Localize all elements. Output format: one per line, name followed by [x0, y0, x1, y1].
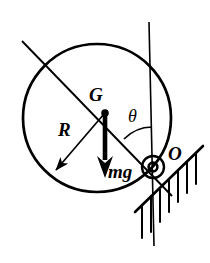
physics-diagram-disk-pivot: G R mg O θ: [0, 0, 210, 263]
label-angle: θ: [128, 107, 137, 125]
label-weight: mg: [108, 162, 132, 181]
diagram-canvas: [0, 0, 210, 263]
center-point-G: [101, 109, 109, 117]
label-pivot: O: [168, 144, 182, 163]
angle-arc-theta: [124, 127, 152, 139]
label-radius: R: [58, 120, 71, 139]
label-center-of-gravity: G: [89, 85, 103, 104]
